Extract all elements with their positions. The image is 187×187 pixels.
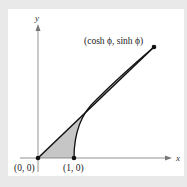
unit-point (72, 156, 77, 161)
x-axis-arrow-icon (165, 156, 172, 161)
hyperbola-curve (74, 47, 154, 158)
endpoint-point (152, 45, 157, 50)
x-axis-label: x (175, 153, 180, 163)
origin-label: (0, 0) (14, 163, 35, 174)
origin-point (36, 156, 41, 161)
hyperbolic-sector-diagram: y x (cosh ϕ, sinh ϕ) (0, 0) (1, 0) (0, 0, 187, 187)
endpoint-label: (cosh ϕ, sinh ϕ) (84, 36, 143, 47)
y-axis-label: y (34, 13, 39, 23)
ray-to-endpoint (38, 47, 154, 158)
y-axis-arrow-icon (36, 24, 41, 31)
unit-point-label: (1, 0) (63, 163, 84, 174)
